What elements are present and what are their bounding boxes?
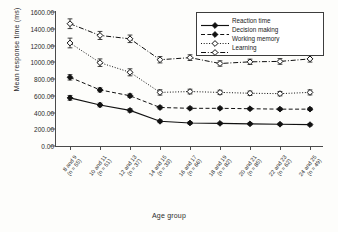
legend-label: Decision making [232, 26, 278, 33]
legend-marker-icon [200, 25, 230, 34]
chart-figure: Mean response time (ms) Age group 1600.0… [0, 0, 338, 232]
legend-label: Reaction time [232, 17, 271, 24]
legend-label: Working memory [232, 35, 279, 42]
legend-item-reaction-time[interactable]: Reaction time [200, 16, 319, 25]
legend-item-learning[interactable]: Learning [200, 43, 319, 52]
legend-item-decision-making[interactable]: Decision making [200, 25, 319, 34]
legend-label: Learning [232, 44, 257, 51]
chart-legend: Reaction timeDecision makingWorking memo… [196, 12, 324, 56]
legend-marker-icon [200, 16, 230, 25]
legend-marker-icon [200, 43, 230, 52]
legend-item-working-memory[interactable]: Working memory [200, 34, 319, 43]
legend-marker-icon [200, 34, 230, 43]
